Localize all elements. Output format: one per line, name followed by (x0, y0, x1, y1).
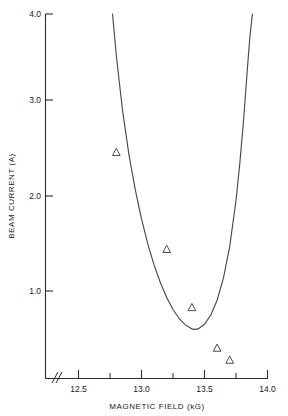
x-axis-title: MAGNETIC FIELD (kG) (109, 402, 204, 411)
x-axis-tick-labels: 12.5 13.0 13.5 14.0 (70, 384, 276, 394)
data-point-markers (112, 148, 233, 363)
data-point-marker (112, 148, 120, 155)
data-point-marker (226, 356, 234, 363)
x-axis-break-icon (52, 372, 62, 383)
axes-group (46, 14, 269, 379)
x-tick-label: 12.5 (70, 384, 87, 394)
x-axis-minor-ticks (110, 373, 236, 379)
data-point-marker (188, 303, 196, 310)
y-tick-label: 3.0 (29, 95, 41, 105)
data-point-marker (163, 245, 171, 252)
y-axis-ticks (46, 14, 54, 291)
x-tick-label: 13.0 (133, 384, 150, 394)
y-tick-label: 2.0 (29, 191, 41, 201)
x-tick-label: 14.0 (259, 384, 276, 394)
theory-curve (113, 14, 253, 329)
figure-beam-current-vs-magnetic-field: 4.0 3.0 2.0 1.0 12.5 13.0 13.5 14.0 (0, 0, 288, 416)
plot-canvas: 4.0 3.0 2.0 1.0 12.5 13.0 13.5 14.0 (0, 0, 288, 416)
y-axis-title: BEAM CURRENT (A) (7, 153, 16, 239)
theory-curve-path (113, 14, 253, 329)
x-tick-label: 13.5 (196, 384, 213, 394)
data-point-marker (213, 344, 221, 351)
y-tick-label: 1.0 (29, 286, 41, 296)
axis-lines (46, 14, 269, 379)
y-tick-label: 4.0 (29, 9, 41, 19)
y-axis-tick-labels: 4.0 3.0 2.0 1.0 (29, 9, 41, 296)
